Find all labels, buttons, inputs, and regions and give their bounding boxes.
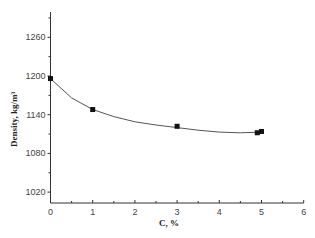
y-tick-label: 1200 xyxy=(25,71,45,81)
y-axis-title: Density, kg/m³ xyxy=(9,92,19,148)
y-tick-label: 1140 xyxy=(26,110,45,120)
y-tick-label: 1020 xyxy=(25,187,45,197)
data-point xyxy=(259,129,264,134)
x-axis-title: C, % xyxy=(159,218,179,228)
data-point xyxy=(48,76,53,81)
x-tick-label: 5 xyxy=(259,207,264,217)
y-tick-label: 1080 xyxy=(25,148,45,158)
x-tick-label: 2 xyxy=(132,207,137,217)
data-point xyxy=(90,107,95,112)
y-tick-label: 1260 xyxy=(25,32,45,42)
density-chart: 012345610201080114012001260C, %Density, … xyxy=(0,0,315,238)
x-tick-label: 4 xyxy=(217,207,222,217)
x-tick-label: 6 xyxy=(301,207,306,217)
x-tick-label: 1 xyxy=(90,207,95,217)
x-tick-label: 0 xyxy=(48,207,53,217)
fit-curve xyxy=(51,79,262,133)
x-tick-label: 3 xyxy=(175,207,180,217)
data-point xyxy=(175,124,180,129)
